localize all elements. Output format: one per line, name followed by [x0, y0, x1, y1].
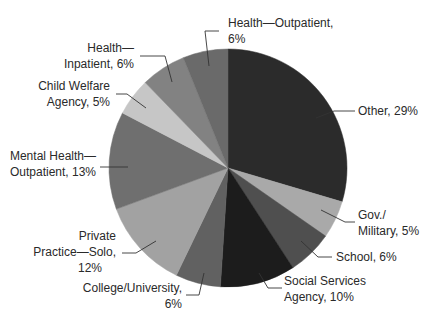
slice-label-other: Other, 29% [358, 104, 418, 118]
slice-label-gov-military: Gov./Military, 5% [358, 208, 419, 238]
slice-label-health-outpatient: Health—Outpatient,6% [228, 16, 333, 46]
slice-label-health-inpatient: Health—Inpatient, 6% [64, 41, 134, 71]
slice-label-private-practice-solo: PrivatePractice—Solo,12% [33, 229, 116, 275]
slice-label-social-services-agency: Social ServicesAgency, 10% [284, 274, 366, 304]
slice-label-mental-health-outpatient: Mental Health—Outpatient, 13% [10, 149, 96, 179]
slice-label-college-university: College/University,6% [83, 281, 182, 311]
pie-chart: Other, 29%Gov./Military, 5%School, 6%Soc… [0, 0, 432, 321]
slice-label-school: School, 6% [336, 250, 397, 264]
slice-label-child-welfare-agency: Child WelfareAgency, 5% [38, 79, 110, 109]
